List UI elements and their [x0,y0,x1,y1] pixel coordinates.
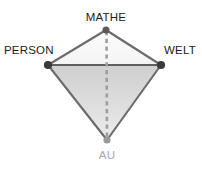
vertex-dot-person [44,61,52,69]
vertex-dot-welt [157,61,165,69]
vertex-dot-au [103,136,110,143]
vertex-label-welt: WELT [164,44,196,57]
diagram-canvas [0,0,202,171]
vertex-label-mathe: MATHE [71,11,141,24]
vertex-label-au: AU [72,149,142,162]
vertex-dot-mathe [103,27,110,34]
didactic-triangle-diagram: MATHE PERSON WELT AU [0,0,202,171]
lower-triangle-region [48,65,161,140]
upper-triangle-region [48,30,161,65]
vertex-label-person: PERSON [4,44,54,57]
